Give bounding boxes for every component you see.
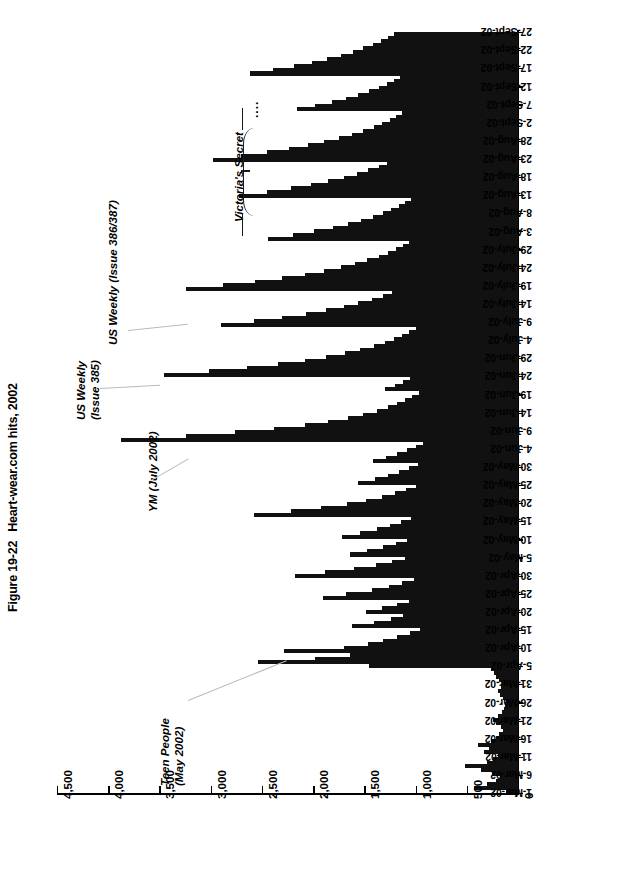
category-axis-tick-label: 24-July-02 (483, 261, 532, 272)
category-axis-tick-label: 14-Jun-02 (485, 406, 532, 417)
category-axis-tick-label: 9-Jun-02 (490, 424, 532, 435)
bar (494, 671, 518, 675)
victorias-secret-brace (243, 128, 258, 216)
value-axis-tick-label: 2,500 (267, 770, 279, 799)
value-axis-tick-label: 500 (472, 780, 484, 799)
bar (305, 423, 518, 427)
value-axis-tick (211, 786, 212, 793)
bar (374, 344, 518, 348)
category-axis-tick-label: 3-Aug-02 (489, 225, 532, 236)
category-axis-tick-label: 29-July-02 (483, 243, 532, 254)
bar (395, 384, 518, 388)
category-axis-tick-label: 19-July-02 (483, 279, 532, 290)
bar (254, 319, 518, 323)
bar (221, 323, 518, 327)
bar (361, 219, 518, 223)
bar (255, 280, 518, 284)
category-axis-tick-label: 10-Apr-02 (485, 642, 532, 653)
category-axis-tick-label: 30-May-02 (483, 461, 532, 472)
category-axis-tick-label: 30-Apr-02 (485, 569, 532, 580)
bar (186, 434, 518, 438)
bar (397, 635, 518, 639)
bar (247, 366, 518, 370)
value-axis-tick (467, 786, 468, 793)
bar (164, 373, 518, 377)
bar (358, 93, 518, 97)
bar (213, 158, 518, 162)
bar (377, 527, 518, 531)
category-axis-tick-label: 16-Mar-02 (485, 732, 532, 743)
bar (284, 649, 518, 653)
category-axis-tick-label: 15-May-02 (483, 515, 532, 526)
category-axis-tick-label: 25-May-02 (483, 479, 532, 490)
bar (235, 430, 518, 434)
category-axis-tick-label: 4-July-02 (488, 334, 532, 345)
annotation-us-weekly-385: US Weekly (Issue 385) (74, 360, 101, 420)
category-axis-tick-label: 28-Aug-02 (483, 134, 532, 145)
category-axis-tick-label: 24-Jun-02 (485, 370, 532, 381)
bar (400, 75, 518, 79)
category-axis-tick-label: 10-May-02 (483, 533, 532, 544)
value-axis-line (57, 793, 518, 795)
category-axis-tick-label: 8-Aug-02 (489, 207, 532, 218)
category-axis-tick-label: 18-Aug-02 (483, 171, 532, 182)
category-axis-tick-label: 4-Jun-02 (490, 442, 532, 453)
bar (268, 237, 518, 241)
bar (306, 312, 518, 316)
category-axis-tick-label: 14-July-02 (483, 297, 532, 308)
bar (291, 509, 518, 513)
bar (282, 316, 518, 320)
bar (250, 71, 518, 75)
bar (239, 194, 518, 198)
bar (405, 201, 518, 205)
category-axis-tick-label: 2-Sept-02 (487, 116, 532, 127)
annotation-line: US Weekly (74, 360, 88, 420)
bar (278, 362, 518, 366)
value-axis-tick-label: 1,500 (369, 770, 381, 799)
category-axis-tick-label: 5-May-02 (489, 551, 532, 562)
bar (267, 150, 518, 154)
bar (403, 380, 518, 384)
bar (267, 190, 518, 194)
bar (379, 255, 518, 259)
annotation-line: (May 2002) (172, 718, 186, 786)
category-axis-tick-label: 23-Aug-02 (483, 153, 532, 164)
bar (416, 326, 518, 330)
category-axis-tick-label: 25-Apr-02 (485, 587, 532, 598)
value-axis-tick-label: 3,000 (216, 770, 228, 799)
chart-plot-area: 4,5004,0003,5003,0002,5002,0001,5001,000… (0, 0, 624, 877)
bar (314, 229, 518, 233)
bar (121, 438, 518, 442)
category-axis-tick-label: 6-Mar-02 (490, 769, 532, 780)
bar (289, 147, 518, 151)
value-axis-tick-label: 1,000 (421, 770, 433, 799)
annotation-teen-people: Teen People (May 2002) (158, 718, 185, 786)
category-axis-tick-label: 19-Jun-02 (485, 388, 532, 399)
bar (498, 689, 518, 693)
category-axis-tick-label: 17-Sept-02 (481, 62, 532, 73)
bar (328, 420, 518, 424)
value-axis-tick (57, 786, 58, 793)
bar (376, 563, 518, 567)
bar (315, 657, 518, 661)
bar (395, 491, 518, 495)
bar (311, 183, 518, 187)
bar (350, 653, 518, 657)
category-axis-tick-label: 13-Aug-02 (483, 189, 532, 200)
category-axis-tick-label: 26-Mar-02 (485, 696, 532, 707)
category-axis-tick-label: 5-Apr-02 (491, 660, 532, 671)
bar (209, 369, 518, 373)
bar (379, 165, 518, 169)
annotation-line: (Issue 385) (88, 360, 102, 420)
annotation-line: YM (July 2002) (146, 431, 160, 512)
value-axis-tick (262, 786, 263, 793)
annotation-us-weekly-386: US Weekly (Issue 386/387) (106, 200, 120, 345)
bar (186, 287, 518, 291)
annotation-ym: YM (July 2002) (146, 431, 160, 512)
category-axis-tick-label: 20-Apr-02 (485, 606, 532, 617)
annotation-line: Teen People (158, 718, 172, 786)
bar (391, 617, 518, 621)
bar (223, 283, 518, 287)
value-axis-tick (416, 786, 417, 793)
category-axis-tick-label: 9-July-02 (488, 316, 532, 327)
